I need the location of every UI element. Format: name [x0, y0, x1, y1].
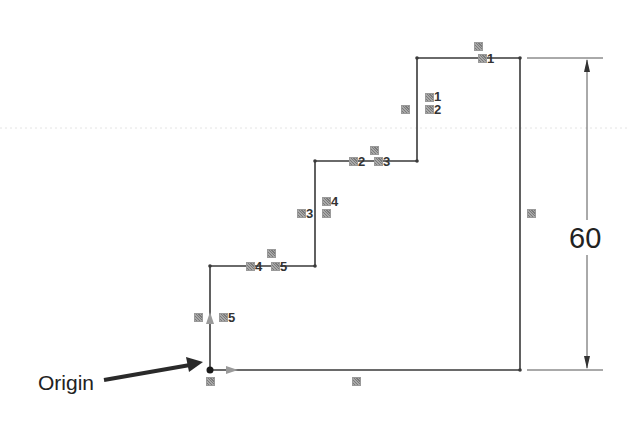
equal-relation-icon[interactable] [246, 262, 255, 271]
dim-arrow-up-icon [584, 59, 590, 72]
horizontal-relation-icon[interactable] [352, 377, 361, 386]
equal-relation-icon[interactable] [478, 54, 487, 63]
relation-label: 4 [331, 195, 338, 208]
vertical-relation-icon[interactable] [401, 105, 410, 114]
vertical-relation-icon[interactable] [527, 209, 536, 218]
relation-label: 2 [434, 103, 441, 116]
horizontal-relation-icon[interactable] [474, 42, 483, 51]
equal-relation-icon[interactable] [425, 93, 434, 102]
relation-label: 5 [228, 311, 235, 324]
equal-relation-icon[interactable] [349, 157, 358, 166]
sketch-vertices[interactable] [208, 56, 522, 372]
horizontal-relation-icon[interactable] [370, 146, 379, 155]
origin-x-arrow-icon [226, 366, 238, 374]
equal-relation-icon[interactable] [297, 209, 306, 218]
relation-label: 1 [487, 52, 494, 65]
relation-label: 3 [306, 207, 313, 220]
relation-label: 5 [280, 260, 287, 273]
origin-callout-arrow [104, 365, 190, 380]
coincident-relation-icon[interactable] [206, 377, 215, 386]
origin-point[interactable] [207, 367, 214, 374]
dim-arrow-down-icon [584, 356, 590, 369]
equal-relation-icon[interactable] [219, 313, 228, 322]
origin-label: Origin [38, 371, 94, 395]
equal-relation-icon[interactable] [271, 262, 280, 271]
origin-y-arrow-icon [206, 312, 214, 324]
equal-relation-icon[interactable] [322, 197, 331, 206]
equal-relation-icon[interactable] [425, 105, 434, 114]
sketch-profile[interactable] [210, 58, 520, 370]
dimension-value[interactable]: 60 [568, 222, 602, 255]
relation-label: 4 [255, 260, 262, 273]
relation-label: 3 [383, 155, 390, 168]
arrowhead-icon [186, 357, 203, 372]
horizontal-relation-icon[interactable] [267, 249, 276, 258]
vertical-relation-icon[interactable] [322, 209, 331, 218]
dimension-60[interactable] [527, 58, 603, 370]
equal-relation-icon[interactable] [374, 157, 383, 166]
vertical-relation-icon[interactable] [194, 313, 203, 322]
relation-label: 2 [358, 155, 365, 168]
